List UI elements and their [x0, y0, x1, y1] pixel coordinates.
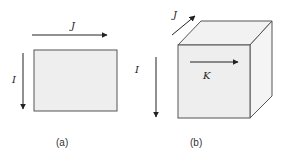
- caption-b: (b): [190, 137, 202, 148]
- label-j: J: [69, 20, 76, 31]
- panel-a: J I (a): [11, 20, 117, 148]
- label-i: I: [11, 74, 17, 85]
- label-j-depth: J: [171, 9, 178, 20]
- panel-b: J I K (b): [134, 9, 272, 148]
- square-2d: [34, 50, 117, 111]
- caption-a: (a): [56, 137, 68, 148]
- label-i: I: [134, 64, 140, 75]
- figure-canvas: J I (a) J I K (b): [0, 0, 283, 155]
- label-k: K: [202, 70, 211, 81]
- cube-front-face: [178, 45, 250, 118]
